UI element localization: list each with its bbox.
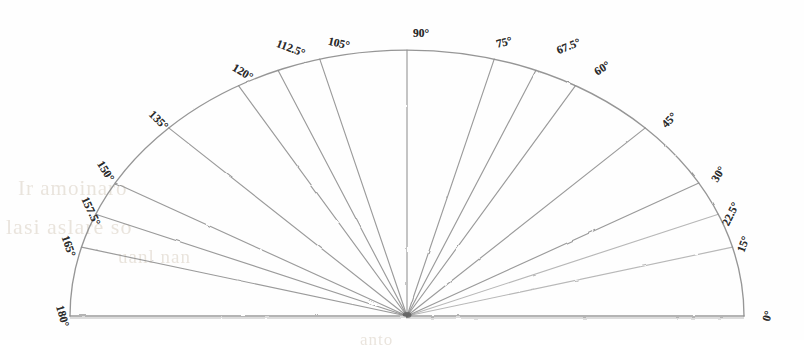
spoke-30deg	[407, 183, 699, 316]
angle-label-90deg: 90°	[413, 27, 429, 39]
spoke-120deg	[239, 86, 408, 316]
spoke-15deg	[407, 247, 733, 316]
spoke-45deg	[407, 128, 645, 316]
spoke-112.5deg	[278, 70, 407, 316]
spoke-22.5deg	[407, 214, 718, 316]
origin-point	[403, 312, 412, 318]
spoke-60deg	[407, 86, 576, 316]
spoke-165deg	[81, 247, 407, 316]
spoke-75deg	[407, 59, 494, 316]
spoke-67.5deg	[407, 70, 536, 316]
spoke-150deg	[115, 183, 407, 316]
spoke-135deg	[169, 128, 407, 316]
spoke-157.5deg	[96, 214, 407, 316]
spoke-105deg	[320, 59, 407, 316]
spokes-group	[70, 50, 744, 316]
